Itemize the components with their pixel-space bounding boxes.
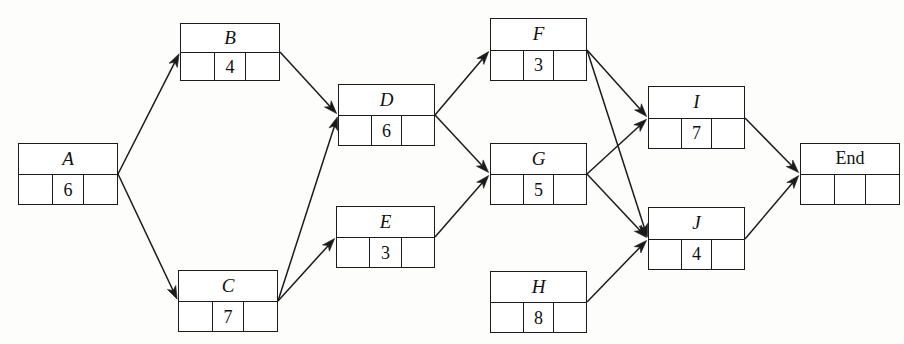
edge-line bbox=[280, 52, 331, 107]
node-cell-row: 4 bbox=[649, 239, 744, 270]
node-cell-duration: 6 bbox=[52, 175, 85, 204]
node-label: J bbox=[649, 208, 744, 239]
node-cell-early-finish bbox=[84, 175, 117, 204]
edge-d-g bbox=[435, 115, 489, 173]
node-d[interactable]: D6 bbox=[338, 84, 435, 146]
node-cell-early-finish bbox=[554, 175, 586, 204]
network-diagram: A6B4C7D6E3F3G5H8I7J4End bbox=[0, 0, 904, 344]
node-cell-duration: 4 bbox=[214, 53, 247, 80]
edge-a-c bbox=[118, 174, 177, 299]
edge-g-i bbox=[587, 119, 647, 174]
node-cell-duration: 7 bbox=[212, 302, 245, 331]
edge-line bbox=[278, 245, 329, 301]
node-cell-early-finish bbox=[866, 175, 899, 204]
node-cell-duration: 5 bbox=[523, 175, 555, 204]
edge-line bbox=[435, 58, 483, 115]
node-label: I bbox=[649, 87, 744, 118]
edge-layer bbox=[0, 0, 904, 344]
node-cell-row: 3 bbox=[337, 237, 434, 267]
node-cell-duration: 4 bbox=[681, 240, 713, 270]
edge-i-end bbox=[745, 118, 799, 173]
node-cell-early-start bbox=[339, 116, 371, 145]
edge-line bbox=[118, 174, 173, 291]
node-c[interactable]: C7 bbox=[178, 270, 278, 332]
node-end[interactable]: End bbox=[800, 143, 900, 205]
edge-line bbox=[587, 50, 645, 229]
edge-line bbox=[745, 118, 792, 166]
node-f[interactable]: F3 bbox=[490, 18, 587, 81]
edge-j-end bbox=[745, 176, 799, 239]
node-g[interactable]: G5 bbox=[490, 143, 587, 205]
node-cell-row: 3 bbox=[491, 50, 586, 81]
node-cell-early-start bbox=[649, 119, 681, 149]
node-label: A bbox=[19, 144, 117, 174]
node-cell-row bbox=[801, 174, 899, 204]
arrow-head-icon bbox=[169, 54, 179, 68]
node-cell-duration: 7 bbox=[681, 119, 713, 149]
node-cell-row: 6 bbox=[19, 174, 117, 204]
node-cell-row: 8 bbox=[491, 302, 586, 332]
edge-d-f bbox=[435, 52, 489, 115]
node-cell-duration: 6 bbox=[371, 116, 403, 145]
edge-line bbox=[745, 182, 793, 239]
node-e[interactable]: E3 bbox=[336, 206, 435, 268]
node-cell-early-finish bbox=[712, 240, 744, 270]
edge-line bbox=[587, 247, 640, 302]
node-b[interactable]: B4 bbox=[180, 23, 280, 81]
node-label: F bbox=[491, 19, 586, 50]
node-j[interactable]: J4 bbox=[648, 207, 745, 270]
node-cell-row: 6 bbox=[339, 115, 434, 145]
node-cell-duration: 8 bbox=[523, 303, 555, 332]
node-cell-row: 7 bbox=[179, 301, 277, 331]
edge-a-b bbox=[118, 54, 179, 174]
node-cell-early-start bbox=[491, 51, 523, 81]
edge-f-j bbox=[587, 50, 648, 237]
node-label: E bbox=[337, 207, 434, 237]
node-label: G bbox=[491, 144, 586, 174]
edge-c-e bbox=[278, 238, 335, 301]
edge-c-d bbox=[278, 117, 338, 301]
edge-line bbox=[278, 125, 335, 301]
node-cell-duration: 3 bbox=[369, 238, 401, 267]
node-cell-early-start bbox=[181, 53, 214, 80]
node-cell-early-finish bbox=[554, 303, 586, 332]
node-cell-early-start bbox=[491, 175, 523, 204]
edge-line bbox=[587, 50, 641, 110]
node-label: End bbox=[801, 144, 899, 174]
edge-b-d bbox=[280, 52, 337, 114]
edge-line bbox=[587, 174, 640, 231]
node-cell-early-finish bbox=[246, 53, 279, 80]
node-cell-row: 5 bbox=[491, 174, 586, 204]
node-label: C bbox=[179, 271, 277, 301]
node-cell-early-start bbox=[491, 303, 523, 332]
node-cell-early-finish bbox=[554, 51, 586, 81]
node-cell-early-finish bbox=[712, 119, 744, 149]
node-cell-row: 4 bbox=[181, 52, 279, 80]
node-label: D bbox=[339, 85, 434, 115]
node-cell-early-start bbox=[649, 240, 681, 270]
node-cell-early-finish bbox=[402, 238, 434, 267]
node-label: B bbox=[181, 24, 279, 52]
node-h[interactable]: H8 bbox=[490, 271, 587, 333]
node-cell-duration: 3 bbox=[523, 51, 555, 81]
edge-f-i bbox=[587, 50, 647, 117]
node-cell-early-start bbox=[337, 238, 369, 267]
node-cell-early-start bbox=[801, 175, 834, 204]
edge-line bbox=[435, 115, 482, 166]
node-i[interactable]: I7 bbox=[648, 86, 745, 149]
node-cell-duration bbox=[834, 175, 867, 204]
edge-line bbox=[435, 182, 483, 237]
node-cell-early-finish bbox=[244, 302, 277, 331]
edge-line bbox=[118, 62, 175, 174]
edge-h-j bbox=[587, 240, 647, 302]
node-a[interactable]: A6 bbox=[18, 143, 118, 205]
node-cell-early-finish bbox=[402, 116, 434, 145]
edge-e-g bbox=[435, 176, 489, 237]
node-cell-row: 7 bbox=[649, 118, 744, 149]
node-cell-early-start bbox=[179, 302, 212, 331]
node-cell-early-start bbox=[19, 175, 52, 204]
node-label: H bbox=[491, 272, 586, 302]
